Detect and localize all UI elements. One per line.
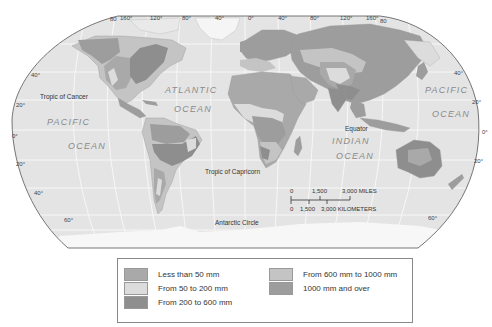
lat-label-left: 0° — [12, 133, 18, 139]
lon-label: 40° — [215, 15, 224, 21]
equator-label: Equator — [345, 126, 368, 133]
lon-label: 120° — [340, 15, 352, 21]
edge-label-right: 80 — [380, 18, 387, 24]
legend-swatch — [124, 282, 148, 295]
scale-km-label: 3,000 KILOMETERS — [321, 206, 376, 212]
pacific-ocean-label-right: OCEAN — [432, 110, 470, 119]
legend-label: From 50 to 200 mm — [158, 284, 228, 293]
atlantic-ocean-label: OCEAN — [174, 105, 212, 114]
lat-label-left: 60° — [64, 217, 73, 223]
legend-swatch — [269, 282, 293, 295]
edge-label-left: 80 — [110, 16, 117, 22]
legend-label: From 600 mm to 1000 mm — [303, 270, 397, 279]
legend-item: From 600 mm to 1000 mm — [269, 267, 397, 281]
pacific-ocean-label-left: OCEAN — [68, 142, 106, 151]
atlantic-ocean-label: ATLANTIC — [165, 86, 217, 95]
scale-miles-label: 1,500 — [312, 188, 327, 194]
legend-label: 1000 mm and over — [303, 284, 370, 293]
pacific-ocean-label-right: PACIFIC — [425, 86, 468, 95]
lat-label-left: 40° — [34, 190, 43, 196]
scale-km-label: 0 — [290, 206, 293, 212]
indian-ocean-label: INDIAN — [332, 137, 370, 146]
legend-item: From 50 to 200 mm — [124, 281, 228, 295]
lon-label: 80° — [182, 15, 191, 21]
lat-label-right: 40° — [454, 70, 463, 76]
tropic-of-capricorn-label: Tropic of Capricorn — [205, 169, 260, 176]
lat-label-right: 0° — [482, 129, 488, 135]
indian-ocean-label: OCEAN — [336, 152, 374, 161]
lon-label: 160° — [366, 15, 378, 21]
world-precipitation-map: 80 160° 120° 80° 40° 0° 40° 80° 120° 160… — [0, 0, 492, 252]
legend-label: Less than 50 mm — [158, 270, 219, 279]
legend-item: 1000 mm and over — [269, 281, 370, 295]
lat-label-left: 20° — [16, 102, 25, 108]
tropic-of-cancer-label: Tropic of Cancer — [40, 94, 88, 101]
legend-swatch — [124, 268, 148, 281]
lon-label: 0° — [248, 15, 254, 21]
lon-label: 120° — [150, 15, 162, 21]
legend-item: From 200 to 600 mm — [124, 295, 232, 309]
scale-bar-line — [290, 196, 352, 204]
legend: Less than 50 mm From 50 to 200 mm From 2… — [117, 258, 413, 323]
lon-label: 80° — [310, 15, 319, 21]
legend-swatch — [269, 268, 293, 281]
lat-label-left: 40° — [31, 72, 40, 78]
lon-label: 40° — [278, 15, 287, 21]
lon-label: 160° — [120, 15, 132, 21]
antarctic-circle-label: Antarctic Circle — [215, 220, 259, 227]
legend-swatch — [124, 296, 148, 309]
scale-miles-label: 0 — [290, 188, 293, 194]
scale-km-label: 1,500 — [300, 206, 315, 212]
legend-item: Less than 50 mm — [124, 267, 219, 281]
lat-label-right: 20° — [472, 99, 481, 105]
legend-label: From 200 to 600 mm — [158, 298, 232, 307]
pacific-ocean-label-left: PACIFIC — [47, 118, 90, 127]
lat-label-left: 20° — [16, 161, 25, 167]
scale-bar: 0 1,500 3,000 MILES 0 1,500 3,000 KILOME… — [290, 188, 430, 218]
lat-label-right: 20° — [474, 158, 483, 164]
scale-miles-label: 3,000 MILES — [342, 188, 377, 194]
